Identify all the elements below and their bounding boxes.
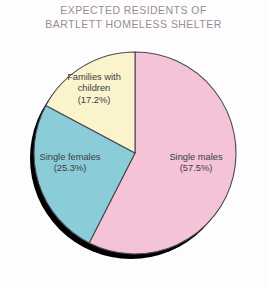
pie-label-females-percent: (25.3%) (17, 163, 123, 174)
pie-label-single-females: Single females (25.3%) (17, 152, 123, 175)
pie-label-males-percent: (57.5%) (148, 163, 244, 174)
pie-label-families-percent: (17.2%) (47, 95, 141, 106)
pie-label-females-name: Single females (17, 152, 123, 163)
pie-chart-figure: EXPECTED RESIDENTS OF BARTLETT HOMELESS … (0, 0, 267, 287)
pie-label-families-with-children: Families with children (17.2%) (47, 72, 141, 106)
pie-label-single-males: Single males (57.5%) (148, 152, 244, 175)
chart-title-line-2: BARTLETT HOMELESS SHELTER (0, 18, 267, 32)
chart-title-line-1: EXPECTED RESIDENTS OF (0, 4, 267, 18)
pie-label-males-name: Single males (148, 152, 244, 163)
pie-label-families-line-1: Families with (47, 72, 141, 83)
chart-title: EXPECTED RESIDENTS OF BARTLETT HOMELESS … (0, 4, 267, 31)
pie-label-families-line-2: children (47, 83, 141, 94)
